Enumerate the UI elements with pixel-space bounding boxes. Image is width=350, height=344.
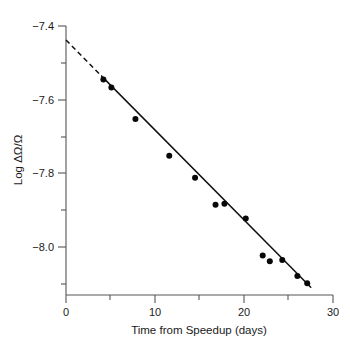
y-tick-label: −7.6 [32, 94, 54, 106]
x-tick-label: 20 [238, 306, 250, 318]
figure-container: −7.4 −7.6 −7.8 −8.0 0 10 20 30 Time from… [0, 0, 350, 344]
data-point [100, 76, 106, 82]
x-tick-label: 0 [63, 306, 69, 318]
y-axis-title: Log ΔΩ/Ω [12, 134, 24, 185]
x-axis-tick-labels: 0 10 20 30 [63, 306, 339, 318]
y-tick-label: −8.0 [32, 241, 54, 253]
data-point [243, 215, 249, 221]
y-axis-ticks [58, 26, 66, 284]
x-tick-label: 10 [149, 306, 161, 318]
x-tick-label: 30 [327, 306, 339, 318]
x-axis-title: Time from Speedup (days) [131, 324, 267, 336]
fit-line-extrapolation [66, 40, 102, 76]
y-tick-label: −7.4 [32, 20, 54, 32]
axis-lines [66, 26, 333, 295]
data-point [108, 85, 114, 91]
data-point [192, 175, 198, 181]
scatter-plot: −7.4 −7.6 −7.8 −8.0 0 10 20 30 Time from… [0, 0, 350, 344]
data-point [267, 258, 273, 264]
data-point [294, 273, 300, 279]
data-point [132, 116, 138, 122]
data-point [166, 153, 172, 159]
data-point [213, 202, 219, 208]
data-point [304, 280, 310, 286]
data-point [221, 201, 227, 207]
y-axis-tick-labels: −7.4 −7.6 −7.8 −8.0 [32, 20, 54, 253]
data-point [279, 257, 285, 263]
fit-line-solid [102, 76, 311, 287]
x-axis-ticks [66, 295, 333, 303]
data-point [260, 253, 266, 259]
y-tick-label: −7.8 [32, 167, 54, 179]
